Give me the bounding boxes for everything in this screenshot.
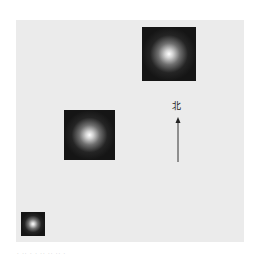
square-glow (142, 27, 196, 81)
square-glow (64, 110, 115, 160)
square-glow (21, 212, 45, 236)
caption: · ·· · · ·· ·· ·· · (17, 250, 66, 256)
gradient-square-small (21, 212, 45, 236)
north-label: 北 (172, 102, 181, 111)
north-arrow-icon (174, 117, 182, 163)
diagram-panel (16, 20, 244, 242)
gradient-square-medium (64, 110, 115, 160)
gradient-square-large (142, 27, 196, 81)
